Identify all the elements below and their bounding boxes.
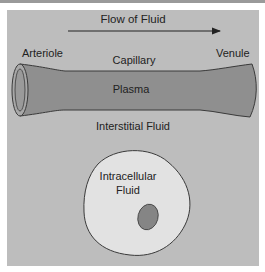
interstitial-fluid-label: Interstitial Fluid (96, 121, 170, 132)
venule-label: Venule (216, 48, 250, 59)
intracellular-label-line1: Intracellular (100, 171, 157, 182)
intracellular-label-line2: Fluid (116, 185, 140, 196)
flow-of-fluid-label: Flow of Fluid (100, 14, 165, 26)
capillary-label: Capillary (113, 55, 156, 66)
plasma-label: Plasma (113, 84, 150, 95)
arteriole-label: Arteriole (22, 48, 63, 59)
cell-membrane (84, 151, 190, 256)
arteriole-opening-inner (15, 69, 25, 111)
fluid-compartments-diagram (0, 0, 265, 272)
